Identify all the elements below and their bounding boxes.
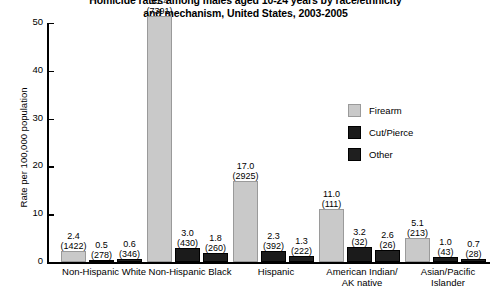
category-label-asian-pacific-islander: Asian/Pacific Islander	[405, 266, 491, 288]
bar-label-cutpierce-non-hispanic-white: 0.5 (278)	[91, 240, 112, 260]
legend-label-other: Other	[369, 149, 393, 160]
legend-swatch-firearm-icon	[348, 104, 361, 117]
bar-firearm-american-indian-ak-native[interactable]: 11.0 (111)	[319, 209, 344, 262]
bar-label-firearm-non-hispanic-black: 51.4 (7391)	[146, 0, 172, 16]
chart-legend: Firearm Cut/Pierce Other	[348, 99, 458, 165]
bar-group-hispanic: 17.0 (2925) 2.3 (392) 1.3 (222)	[233, 23, 319, 262]
bar-other-american-indian-ak-native[interactable]: 2.6 (26)	[375, 250, 400, 262]
category-label-non-hispanic-white: Non-Hispanic White	[61, 266, 147, 277]
bar-label-cutpierce-non-hispanic-black: 3.0 (430)	[177, 228, 198, 248]
bar-label-firearm-american-indian-ak-native: 11.0 (111)	[322, 189, 342, 209]
legend-label-cutpierce: Cut/Pierce	[369, 127, 413, 138]
bar-label-firearm-non-hispanic-white: 2.4 (1422)	[60, 231, 86, 251]
bar-label-firearm-asian-pacific-islander: 5.1 (213)	[407, 218, 428, 238]
y-axis-line	[47, 23, 49, 262]
bar-firearm-asian-pacific-islander[interactable]: 5.1 (213)	[405, 238, 430, 262]
legend-item-cutpierce[interactable]: Cut/Pierce	[348, 121, 458, 143]
bar-other-non-hispanic-white[interactable]: 0.6 (346)	[117, 259, 142, 262]
x-axis-line	[47, 262, 490, 264]
y-tick-label-10: 10	[13, 207, 43, 218]
chart-title-line-1: Homicide rates among males aged 10-24 ye…	[0, 0, 491, 7]
category-label-non-hispanic-black: Non-Hispanic Black	[147, 266, 233, 277]
legend-swatch-other-icon	[348, 148, 361, 161]
legend-item-other[interactable]: Other	[348, 143, 458, 165]
bar-firearm-hispanic[interactable]: 17.0 (2925)	[233, 181, 258, 262]
bar-cutpierce-non-hispanic-black[interactable]: 3.0 (430)	[175, 248, 200, 262]
bar-group-non-hispanic-white: 2.4 (1422) 0.5 (278) 0.6 (346)	[61, 23, 147, 262]
y-tick-label-40: 40	[13, 64, 43, 75]
bar-label-other-non-hispanic-black: 1.8 (260)	[205, 233, 226, 253]
legend-item-firearm[interactable]: Firearm	[348, 99, 458, 121]
bar-label-cutpierce-hispanic: 2.3 (392)	[263, 231, 284, 251]
bar-label-other-asian-pacific-islander: 0.7 (28)	[465, 239, 481, 259]
bar-cutpierce-hispanic[interactable]: 2.3 (392)	[261, 251, 286, 262]
y-tick-label-20: 20	[13, 159, 43, 170]
bar-other-asian-pacific-islander[interactable]: 0.7 (28)	[461, 259, 486, 262]
bar-label-other-american-indian-ak-native: 2.6 (26)	[379, 230, 395, 250]
legend-label-firearm: Firearm	[369, 105, 402, 116]
bar-label-other-non-hispanic-white: 0.6 (346)	[119, 239, 140, 259]
category-label-american-indian-ak-native: American Indian/ AK native	[319, 266, 405, 288]
bar-firearm-non-hispanic-white[interactable]: 2.4 (1422)	[61, 251, 86, 262]
bar-other-non-hispanic-black[interactable]: 1.8 (260)	[203, 253, 228, 262]
y-tick-label-50: 50	[13, 16, 43, 27]
bar-group-non-hispanic-black: 51.4 (7391) 3.0 (430) 1.8 (260)	[147, 23, 233, 262]
chart-title: Homicide rates among males aged 10-24 ye…	[0, 0, 491, 20]
category-label-hispanic: Hispanic	[233, 266, 319, 277]
y-tick-label-30: 30	[13, 112, 43, 123]
bar-label-cutpierce-asian-pacific-islander: 1.0 (43)	[437, 237, 453, 257]
bar-label-other-hispanic: 1.3 (222)	[291, 236, 312, 256]
bar-other-hispanic[interactable]: 1.3 (222)	[289, 256, 314, 262]
y-tick-label-0: 0	[13, 255, 43, 266]
legend-swatch-cutpierce-icon	[348, 126, 361, 139]
chart-title-line-2: and mechanism, United States, 2003-2005	[0, 7, 491, 20]
bar-label-firearm-hispanic: 17.0 (2925)	[232, 161, 258, 181]
homicide-rates-bar-chart: Homicide rates among males aged 10-24 ye…	[0, 0, 491, 290]
bar-label-cutpierce-american-indian-ak-native: 3.2 (32)	[351, 227, 367, 247]
bar-cutpierce-american-indian-ak-native[interactable]: 3.2 (32)	[347, 247, 372, 262]
bar-cutpierce-asian-pacific-islander[interactable]: 1.0 (43)	[433, 257, 458, 262]
bar-firearm-non-hispanic-black[interactable]: 51.4 (7391)	[147, 16, 172, 262]
bar-cutpierce-non-hispanic-white[interactable]: 0.5 (278)	[89, 260, 114, 262]
